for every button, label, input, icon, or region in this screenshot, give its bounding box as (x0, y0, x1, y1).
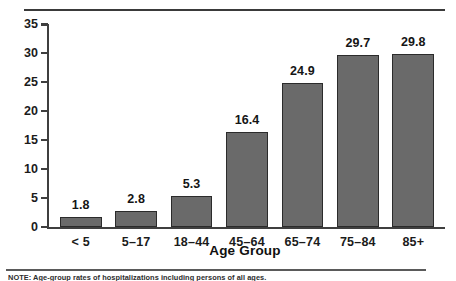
y-axis-tick (41, 226, 48, 228)
bar-value-label: 1.8 (72, 198, 90, 212)
bar-value-label: 29.8 (401, 35, 426, 49)
bar-value-label: 24.9 (290, 64, 315, 78)
bar-value-label: 29.7 (345, 36, 370, 50)
x-axis-category-label: 18–44 (174, 235, 210, 249)
bar[interactable] (226, 132, 268, 227)
bar[interactable] (392, 54, 434, 227)
x-axis-category-label: < 5 (72, 235, 90, 249)
y-axis-tick (41, 139, 48, 141)
y-axis-tick (41, 168, 48, 170)
figure-container: 05101520253035 1.82.85.316.424.929.729.8… (0, 0, 456, 281)
y-axis-tick-label: 10 (24, 162, 38, 176)
bar[interactable] (282, 83, 324, 227)
y-axis-tick-label: 35 (24, 17, 38, 31)
y-axis-tick-label: 15 (24, 133, 38, 147)
bar-value-label: 16.4 (235, 113, 260, 127)
y-axis-tick-label: 30 (24, 46, 38, 60)
y-axis-tick (41, 81, 48, 83)
x-axis-line (47, 227, 445, 229)
x-axis-category-label: 85+ (402, 235, 424, 249)
bar-value-label: 5.3 (183, 177, 201, 191)
x-axis-category-label: 65–74 (285, 235, 321, 249)
x-axis-title: Age Group (209, 243, 281, 258)
y-axis-tick (41, 23, 48, 25)
x-axis-category-label: 75–84 (340, 235, 376, 249)
top-divider-rule (24, 9, 445, 11)
y-axis-tick-label: 0 (31, 220, 38, 234)
bar-value-label: 2.8 (127, 192, 145, 206)
plot-area: 05101520253035 1.82.85.316.424.929.729.8… (47, 24, 445, 229)
bar[interactable] (337, 55, 379, 227)
bar[interactable] (171, 196, 213, 227)
x-axis-category-label: 5–17 (122, 235, 151, 249)
bar[interactable] (60, 217, 102, 227)
y-axis-tick-label: 20 (24, 104, 38, 118)
y-axis-tick (41, 110, 48, 112)
bottom-divider-rule (6, 269, 426, 271)
y-axis-tick (41, 197, 48, 199)
figure-footnote: NOTE: Age-group rates of hospitalization… (8, 273, 448, 281)
y-axis-tick-label: 25 (24, 75, 38, 89)
y-axis-tick (41, 52, 48, 54)
y-axis-tick-label: 5 (31, 191, 38, 205)
bar[interactable] (115, 211, 157, 227)
